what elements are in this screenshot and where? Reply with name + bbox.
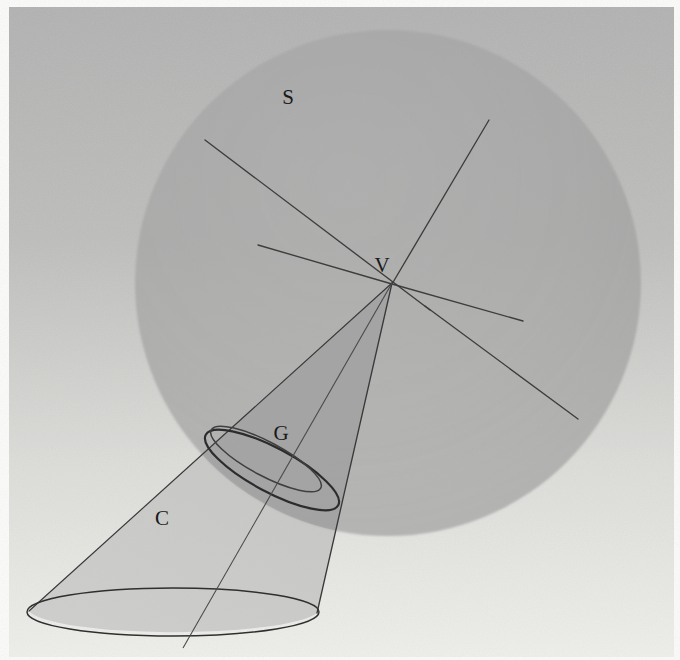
cone-label: C: [155, 506, 169, 530]
contact-circle-label: G: [273, 421, 288, 445]
geometry-diagram: S V G C: [0, 0, 680, 660]
vertex-label: V: [374, 253, 389, 277]
sphere-label: S: [282, 85, 294, 109]
figure-canvas: S V G C: [0, 0, 680, 660]
